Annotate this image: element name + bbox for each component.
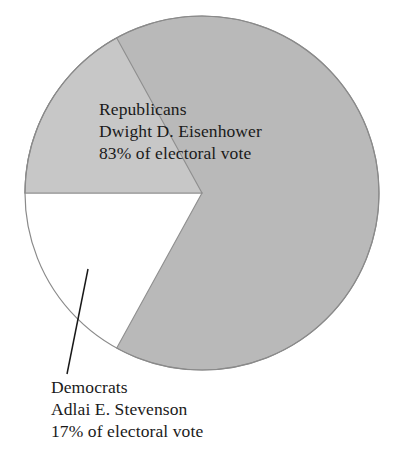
democrat-leader-line	[67, 269, 88, 374]
democrat-slice-label: Democrats Adlai E. Stevenson 17% of elec…	[51, 376, 203, 442]
republican-slice-label: Republicans Dwight D. Eisenhower 83% of …	[99, 98, 262, 164]
pie-chart-figure: Republicans Dwight D. Eisenhower 83% of …	[0, 0, 405, 456]
republican-candidate-name: Dwight D. Eisenhower	[99, 120, 262, 142]
republican-party-name: Republicans	[99, 98, 262, 120]
republican-vote-share: 83% of electoral vote	[99, 142, 262, 164]
democrat-party-name: Democrats	[51, 376, 203, 398]
democrat-candidate-name: Adlai E. Stevenson	[51, 398, 203, 420]
democrat-vote-share: 17% of electoral vote	[51, 420, 203, 442]
